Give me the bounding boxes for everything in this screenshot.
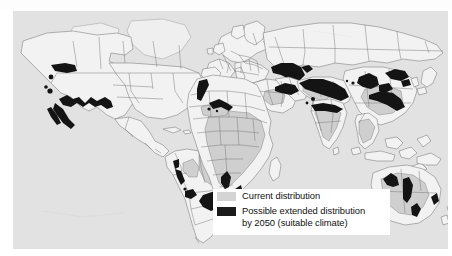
scan-artifact [0,0,452,9]
legend-label-extended-line1: Possible extended distribution [242,205,365,216]
extended-distribution-swatch [217,207,236,216]
legend-label-extended-line2: by 2050 (suitable climate) [242,217,348,228]
legend-label-current: Current distribution [242,189,320,202]
map-legend: Current distribution Possible extended d… [213,189,390,235]
legend-item-current: Current distribution [213,189,390,204]
legend-label-extended: Possible extended distribution by 2050 (… [242,204,365,228]
figure-container: .land{fill:#f2f2f2;stroke:#6f6f6f;stroke… [0,0,452,256]
legend-item-extended: Possible extended distribution by 2050 (… [213,204,390,233]
current-distribution-swatch [217,192,236,201]
